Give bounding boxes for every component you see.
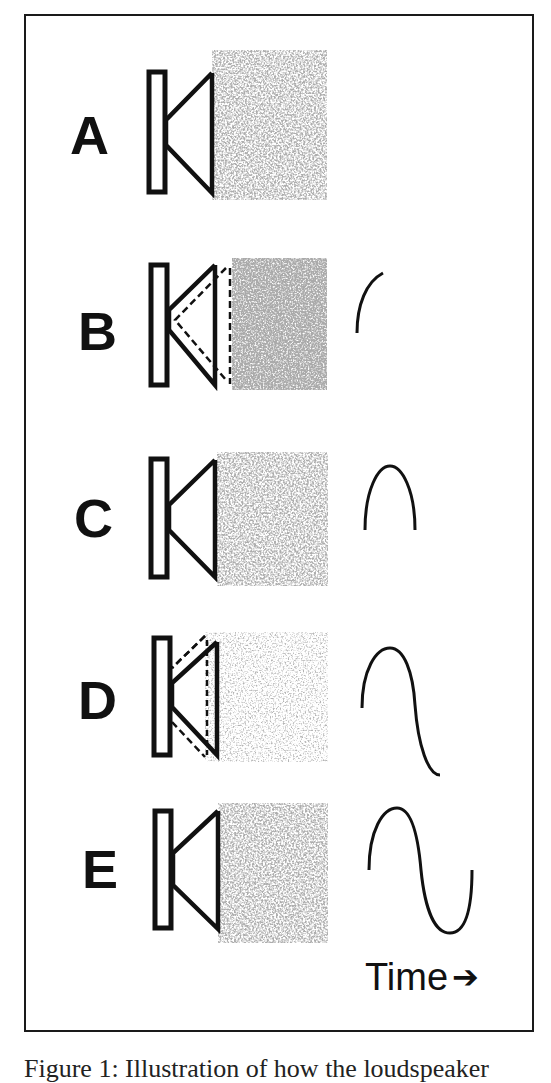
speaker-cone-icon: [169, 265, 215, 385]
displaced-cone-dashed-icon: [175, 268, 226, 380]
row-a-speaker: [149, 50, 327, 200]
air-pressure-noise: [212, 50, 327, 200]
displaced-cone-upper-dashed: [172, 636, 205, 668]
row-label-e: E: [82, 842, 118, 896]
row-d-speaker: [154, 632, 440, 775]
air-pressure-noise: [218, 803, 328, 943]
speaker-cone-icon: [166, 73, 212, 193]
speaker-cone-icon: [169, 460, 215, 577]
waveform-full-cycle-icon: [369, 808, 472, 933]
speaker-magnet-icon: [149, 72, 165, 192]
air-pressure-noise: [217, 452, 328, 586]
row-e-speaker: [155, 803, 472, 943]
time-axis-label: Time ➔: [365, 958, 479, 996]
waveform-quarter-icon: [357, 273, 383, 333]
right-arrow-icon: ➔: [452, 961, 479, 993]
speaker-magnet-icon: [154, 638, 170, 755]
figure-caption: Figure 1: Illustration of how the loudsp…: [24, 1056, 489, 1082]
row-c-speaker: [151, 452, 415, 586]
waveform-three-quarter-icon: [362, 648, 440, 775]
speaker-magnet-icon: [151, 459, 167, 577]
speaker-magnet-icon: [151, 265, 167, 385]
row-label-b: B: [78, 304, 117, 358]
air-pressure-noise: [205, 632, 328, 762]
row-label-c: C: [74, 491, 113, 545]
waveform-half-icon: [365, 466, 415, 530]
time-axis-text: Time: [365, 958, 448, 996]
speaker-magnet-icon: [155, 811, 171, 928]
row-b-speaker: [151, 258, 383, 390]
row-label-d: D: [78, 673, 117, 727]
row-label-a: A: [70, 108, 109, 162]
speaker-cone-icon: [173, 811, 218, 929]
air-pressure-noise: [232, 258, 327, 390]
